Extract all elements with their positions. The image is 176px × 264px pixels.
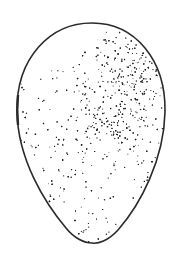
stipple-layer	[14, 20, 167, 246]
egg-drawing	[0, 0, 176, 264]
egg-outline	[17, 23, 165, 243]
egg-illustration	[0, 0, 176, 264]
left-edge-shadow	[17, 95, 18, 125]
